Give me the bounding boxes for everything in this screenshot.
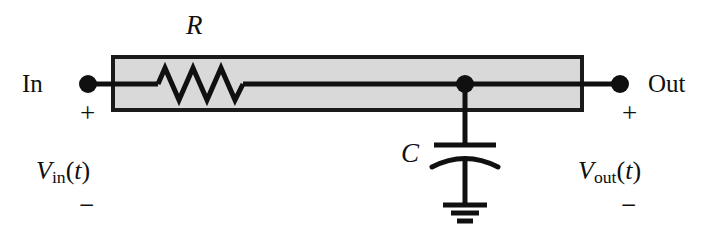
- circuit-diagram-figure: R C In Out + Vin(t) − + Vout(t) −: [0, 0, 717, 244]
- output-port-label: Out: [648, 71, 686, 96]
- input-voltage-symbol: V: [36, 156, 52, 185]
- output-plus-sign: +: [622, 100, 637, 127]
- output-minus-sign: −: [621, 192, 636, 219]
- input-voltage-argument: t: [74, 156, 81, 185]
- input-plus-sign: +: [80, 100, 95, 127]
- output-voltage-subscript: out: [594, 167, 617, 187]
- resistor-label: R: [186, 12, 203, 39]
- capacitor-junction-dot: [456, 75, 474, 93]
- input-voltage-label: Vin(t): [36, 158, 90, 187]
- output-voltage-argument: t: [625, 156, 632, 185]
- capacitor-label: C: [401, 140, 419, 167]
- input-voltage-subscript: in: [52, 167, 66, 187]
- input-minus-sign: −: [79, 192, 94, 219]
- input-terminal-dot: [79, 75, 97, 93]
- input-port-label: In: [22, 71, 43, 96]
- output-voltage-symbol: V: [578, 156, 594, 185]
- output-voltage-label: Vout(t): [578, 158, 641, 187]
- output-terminal-dot: [611, 75, 629, 93]
- circuit-schematic-svg: [0, 0, 717, 244]
